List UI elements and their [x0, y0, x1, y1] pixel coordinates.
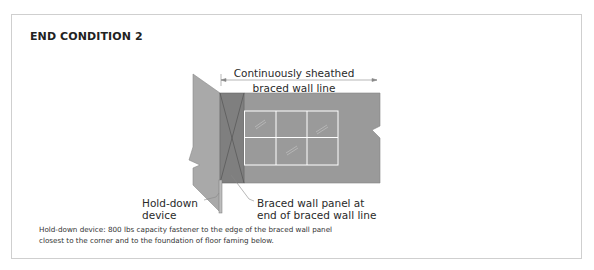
dimension-label-line-1: Continuously sheathed — [229, 67, 359, 79]
corner-wall — [189, 74, 220, 212]
dimension-label-line-2: braced wall line — [229, 82, 359, 94]
hold-down-device — [219, 180, 222, 213]
hold-down-label-line-1: Hold-down — [142, 197, 198, 209]
braced-panel-label: Braced wall panel at end of braced wall … — [257, 197, 376, 221]
braced-wall-panel — [220, 93, 244, 183]
hold-down-label-line-2: device — [142, 209, 198, 221]
braced-panel-label-line-1: Braced wall panel at — [257, 197, 376, 209]
braced-panel-label-line-2: end of braced wall line — [257, 209, 376, 221]
footnote: Hold-down device: 800 lbs capacity faste… — [39, 225, 359, 246]
hold-down-label: Hold-down device — [142, 197, 198, 221]
